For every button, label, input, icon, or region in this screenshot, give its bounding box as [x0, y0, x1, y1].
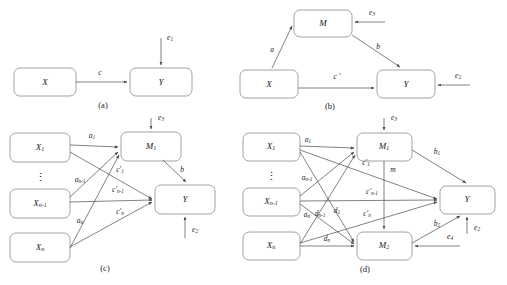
panel-c-caption: (c) [100, 263, 110, 273]
edge-c-Xn-M1-label: an [77, 216, 84, 225]
edge-b-M-Y-label: b [376, 42, 380, 51]
edge-c-X1-Y-label: c'1 [116, 165, 124, 174]
edge-b-X-Y-label: c ' [334, 72, 341, 81]
edge-b-e3-label: e3 [369, 8, 375, 17]
node-c-vdots: ⋮ [35, 171, 46, 183]
panel-c: X1 ⋮ Xn-1 Xn M1 Y a1 an-1 an c'1 c'n-1 c… [10, 113, 215, 273]
edge-d-e3-label: e3 [391, 113, 397, 122]
edge-b-X-M-label: a [270, 45, 274, 54]
edge-b-X-M [272, 26, 292, 68]
edge-d-M1-Y-label: b1 [434, 147, 441, 156]
node-d-vdots: ⋮ [266, 170, 277, 182]
edge-d-Xn-M1 [300, 155, 355, 244]
edge-d-Xn1-M1-label: an-1 [302, 173, 313, 182]
edge-a-e1-label: e1 [167, 33, 173, 42]
edge-b-e2-label: e2 [455, 71, 461, 80]
edge-c-Xn1-M1-label: an-1 [75, 175, 86, 184]
edge-c-Xn-Y-label: c'n [116, 207, 124, 216]
panel-d: X1 ⋮ Xn-1 Xn M1 M2 Y a1 an-1 an d1 dn-1 … [243, 113, 495, 274]
edge-d-X1-M2 [300, 152, 354, 242]
panel-b: M X Y a b c ' e3 e2 (b) [240, 8, 470, 111]
panel-a-caption: (a) [98, 100, 108, 110]
node-a-X-label: X [41, 77, 48, 87]
edge-c-e2-label: e2 [192, 225, 198, 234]
node-b-M-label: M [318, 18, 327, 28]
path-diagram-svg: X Y c e1 (a) M X Y a b c ' e3 e2 (b) X1 … [0, 0, 507, 285]
edge-d-Xn-Y-label: c'n [363, 209, 371, 218]
edge-c-X1-M1 [70, 145, 118, 147]
edge-c-M1-Y-label: b [180, 165, 184, 174]
edge-c-Xn1-Y [70, 200, 152, 202]
panel-d-caption: (d) [360, 264, 370, 274]
edge-d-M1-M2-label: m [390, 165, 396, 174]
edge-c-Xn1-Y-label: c'n-1 [112, 185, 124, 194]
figure-canvas: X Y c e1 (a) M X Y a b c ' e3 e2 (b) X1 … [0, 0, 507, 285]
edge-d-X1-M2-label: d1 [334, 206, 341, 215]
edge-b-M-Y [352, 35, 400, 67]
edge-d-Xn1-M2-label: dn-1 [315, 209, 326, 218]
edge-d-X1-M1-label: a1 [305, 135, 312, 144]
edge-d-Xn1-Y-label: c'n-1 [366, 187, 378, 196]
edge-d-e4-label: e4 [447, 232, 453, 241]
edge-c-e3-label: e3 [158, 113, 164, 122]
edge-a-X-Y-label: c [98, 68, 102, 77]
edge-d-X1-M1 [300, 146, 354, 148]
panel-a: X Y c e1 (a) [14, 33, 192, 110]
panel-b-caption: (b) [325, 101, 335, 111]
edge-d-e2-label: e2 [474, 223, 480, 232]
edge-d-Xn1-M1 [300, 152, 354, 196]
node-b-X-label: X [265, 79, 272, 89]
edge-d-M2-Y-label: b2 [434, 219, 441, 228]
edge-d-Xn1-Y [300, 200, 437, 201]
edge-c-X1-M1-label: a1 [89, 131, 96, 140]
